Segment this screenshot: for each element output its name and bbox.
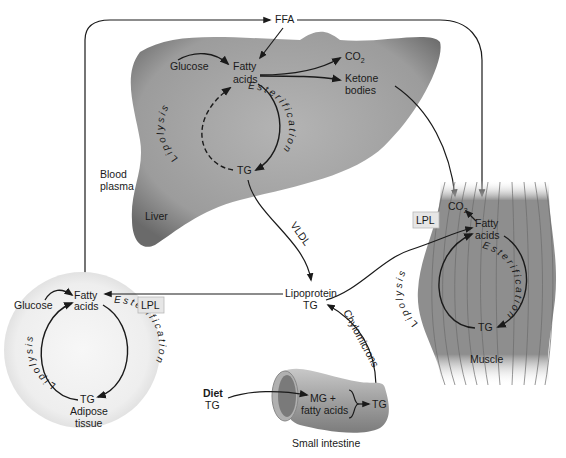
liver-fatty-acids-label-1: Fatty <box>233 60 257 72</box>
adipose-label-1: Adipose <box>70 405 108 417</box>
muscle-lipolysis-label: Lipolysis <box>393 267 420 330</box>
lipoprotein-label-1: Lipoprotein <box>285 287 337 299</box>
liver-ketone-label-1: Ketone <box>345 72 378 84</box>
vldl-label: VLDL <box>288 219 313 248</box>
muscle-fatty-acids-label-1: Fatty <box>475 217 499 229</box>
intestine-lumen <box>278 375 296 417</box>
adipose-lpl-label: LPL <box>141 299 160 311</box>
mg-label-1: MG + <box>310 392 336 404</box>
diet-label-2: TG <box>205 399 220 411</box>
muscle-fatty-acids-label-2: acids <box>475 229 500 241</box>
triglyceride-metabolism-diagram: Liver Glucose Fatty acids CO2 Ketone bod… <box>0 0 566 458</box>
intestine-tg-label: TG <box>372 398 387 410</box>
diet-label-1: Diet <box>203 387 223 399</box>
chylomicrons-label: Chylomicrons <box>341 307 381 369</box>
adipose-fatty-acids-label-2: acids <box>74 300 99 312</box>
mg-label-2: fatty acids <box>301 404 348 416</box>
blood-plasma-label-1: Blood <box>100 168 127 180</box>
small-intestine: Diet TG MG + fatty acids TG Small intest… <box>203 369 389 449</box>
ffa-label: FFA <box>275 13 294 25</box>
adipose-tg-label: TG <box>80 393 95 405</box>
liver-tg-label: TG <box>237 164 252 176</box>
muscle-lpl-label: LPL <box>416 214 435 226</box>
adipose-tissue: Glucose Fatty acids TG Adipose tissue Es… <box>4 272 168 429</box>
muscle: CO2 Fatty acids TG Esterification Lipoly… <box>393 180 556 385</box>
liver-label: Liver <box>145 210 168 222</box>
adipose-glucose-label: Glucose <box>14 299 53 311</box>
small-intestine-label: Small intestine <box>292 437 360 449</box>
liver-ketone-label-2: bodies <box>345 84 376 96</box>
blood-plasma-label-2: plasma <box>100 180 134 192</box>
muscle-label: Muscle <box>470 353 503 365</box>
adipose-label-2: tissue <box>75 417 103 429</box>
liver: Liver Glucose Fatty acids CO2 Ketone bod… <box>131 32 441 247</box>
muscle-tg-label: TG <box>478 321 493 333</box>
liver-glucose-label: Glucose <box>170 60 209 72</box>
lipoprotein-label-2: TG <box>303 299 318 311</box>
